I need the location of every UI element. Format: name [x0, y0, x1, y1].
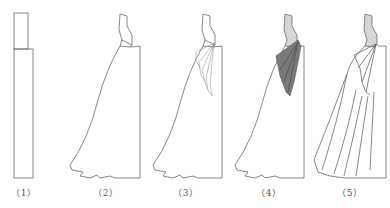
panel-label-3: （3） — [166, 186, 206, 199]
panel-label-1: （1） — [4, 186, 44, 199]
panel-label-4: （4） — [249, 186, 289, 199]
panel-label-5: （5） — [330, 186, 370, 199]
panel-2-dress-outline — [70, 14, 140, 178]
panel-4-drape-shaded — [235, 14, 304, 178]
panel-label-2: （2） — [86, 186, 126, 199]
panel-5-finished-gown — [314, 14, 386, 178]
panel-1-rectangles — [14, 13, 33, 178]
draping-diagram — [0, 0, 390, 208]
panel-3-drape-sketch — [153, 14, 222, 178]
